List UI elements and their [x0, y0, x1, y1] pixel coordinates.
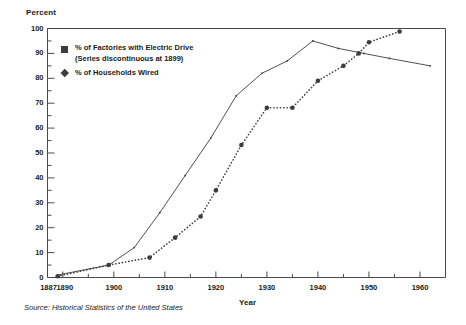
y-tick-label-80: 80	[4, 73, 44, 82]
source-note: Source: Historical Statistics of the Uni…	[24, 303, 183, 312]
x-tick-label-1900: 1900	[94, 283, 134, 292]
legend-square-marker-icon	[61, 46, 68, 53]
x-tick-label-1950: 1950	[349, 283, 389, 292]
y-tick-label-20: 20	[4, 223, 44, 232]
y-tick-label-10: 10	[4, 248, 44, 257]
y-tick-label-90: 90	[4, 48, 44, 57]
x-tick-label-1920: 1920	[196, 283, 236, 292]
y-tick-label-100: 100	[4, 24, 44, 33]
legend-item-factories-note: (Series discontinuous at 1899)	[75, 54, 193, 65]
legend-item-households: % of Households Wired	[75, 68, 159, 79]
x-tick-label-1960: 1960	[400, 283, 440, 292]
x-tick-label-1890: 1890	[45, 283, 85, 292]
y-tick-label-30: 30	[4, 198, 44, 207]
x-axis-title: Year	[239, 298, 256, 307]
legend-item-factories: % of Factories with Electric Drive (Seri…	[75, 43, 193, 64]
plot-area	[0, 0, 466, 325]
legend-item-households-label: % of Households Wired	[75, 68, 159, 79]
legend-item-factories-label: % of Factories with Electric Drive	[75, 43, 193, 54]
x-tick-label-1910: 1910	[145, 283, 185, 292]
y-tick-label-50: 50	[4, 148, 44, 157]
y-tick-label-60: 60	[4, 123, 44, 132]
x-tick-label-1930: 1930	[247, 283, 287, 292]
y-tick-label-70: 70	[4, 98, 44, 107]
y-axis-title: Percent	[26, 8, 56, 17]
chart-figure: Percent Year Source: Historical Statisti…	[0, 0, 466, 325]
x-tick-label-1940: 1940	[298, 283, 338, 292]
y-tick-label-0: 0	[4, 273, 44, 282]
y-tick-label-40: 40	[4, 173, 44, 182]
